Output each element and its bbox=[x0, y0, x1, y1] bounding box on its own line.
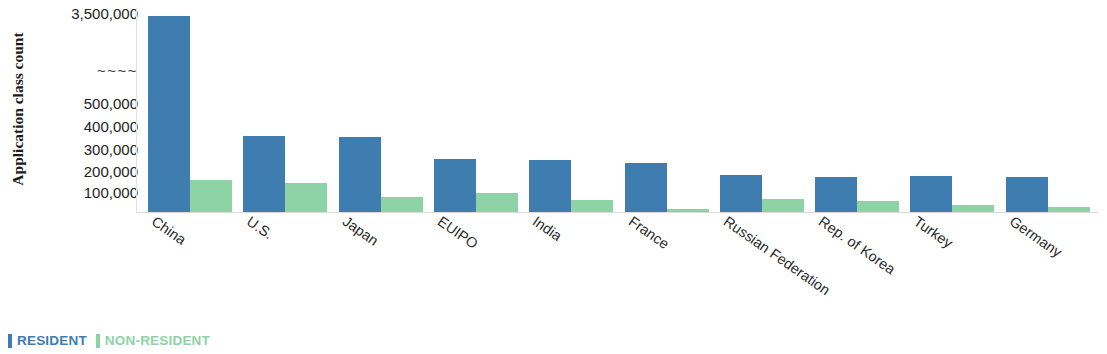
bar-resident[interactable] bbox=[529, 160, 571, 212]
bar-resident[interactable] bbox=[148, 16, 190, 212]
bar-chart: Application class count 3,500,000~~~~500… bbox=[0, 0, 1107, 354]
y-axis-tick-6: 100,000 bbox=[84, 185, 138, 200]
y-axis-line bbox=[136, 8, 137, 213]
bar-group bbox=[1006, 0, 1090, 212]
bar-nonresident[interactable] bbox=[381, 197, 423, 212]
y-axis-tick-5: 200,000 bbox=[84, 164, 138, 179]
x-axis-label-turkey: Turkey bbox=[911, 213, 956, 251]
x-axis-label-japan: Japan bbox=[339, 213, 381, 249]
chart-legend: RESIDENT NON-RESIDENT bbox=[8, 333, 210, 348]
bar-group bbox=[910, 0, 994, 212]
bar-group bbox=[625, 0, 709, 212]
x-axis-label-rep-of-korea: Rep. of Korea bbox=[816, 213, 898, 277]
bar-resident[interactable] bbox=[1006, 177, 1048, 212]
bar-nonresident[interactable] bbox=[190, 180, 232, 212]
bar-group bbox=[815, 0, 899, 212]
x-axis-label-india: India bbox=[530, 213, 565, 244]
bar-group bbox=[148, 0, 232, 212]
bar-nonresident[interactable] bbox=[476, 193, 518, 212]
y-axis-tick-3: 400,000 bbox=[84, 119, 138, 134]
legend-swatch-nonresident-icon bbox=[96, 334, 100, 348]
bar-group bbox=[339, 0, 423, 212]
bar-resident[interactable] bbox=[720, 175, 762, 212]
bar-group bbox=[720, 0, 804, 212]
legend-item-nonresident[interactable]: NON-RESIDENT bbox=[96, 333, 210, 348]
x-axis-category-labels: ChinaU.S.JapanEUIPOIndiaFranceRussian Fe… bbox=[143, 213, 1103, 308]
bar-nonresident[interactable] bbox=[1048, 207, 1090, 212]
y-axis-tick-1: ~~~~ bbox=[97, 63, 138, 78]
bar-nonresident[interactable] bbox=[952, 205, 994, 212]
x-axis-label-france: France bbox=[625, 213, 671, 252]
plot-area bbox=[143, 0, 1098, 213]
x-axis-label-germany: Germany bbox=[1007, 213, 1065, 260]
bar-group bbox=[243, 0, 327, 212]
bar-group bbox=[434, 0, 518, 212]
bar-resident[interactable] bbox=[243, 136, 285, 212]
bar-nonresident[interactable] bbox=[285, 183, 327, 212]
legend-swatch-resident-icon bbox=[8, 334, 12, 348]
legend-label-nonresident: NON-RESIDENT bbox=[105, 333, 210, 348]
y-axis-tick-labels: 3,500,000~~~~500,000400,000300,000200,00… bbox=[30, 0, 138, 215]
y-axis-title: Application class count bbox=[9, 4, 27, 214]
bar-resident[interactable] bbox=[910, 176, 952, 212]
legend-item-resident[interactable]: RESIDENT bbox=[8, 333, 87, 348]
y-axis-tick-0: 3,500,000 bbox=[71, 6, 138, 21]
bar-nonresident[interactable] bbox=[571, 200, 613, 212]
bar-group bbox=[529, 0, 613, 212]
bar-nonresident[interactable] bbox=[857, 201, 899, 212]
x-axis-label-euipo: EUIPO bbox=[435, 213, 481, 252]
bar-nonresident[interactable] bbox=[762, 199, 804, 212]
x-axis-label-u-s: U.S. bbox=[244, 213, 276, 242]
x-axis-label-china: China bbox=[149, 213, 189, 248]
bar-resident[interactable] bbox=[625, 163, 667, 212]
y-axis-tick-4: 300,000 bbox=[84, 142, 138, 157]
legend-label-resident: RESIDENT bbox=[17, 333, 87, 348]
bar-resident[interactable] bbox=[815, 177, 857, 212]
y-axis-tick-2: 500,000 bbox=[84, 96, 138, 111]
bar-resident[interactable] bbox=[434, 159, 476, 212]
bar-resident[interactable] bbox=[339, 137, 381, 212]
bar-nonresident[interactable] bbox=[667, 209, 709, 212]
